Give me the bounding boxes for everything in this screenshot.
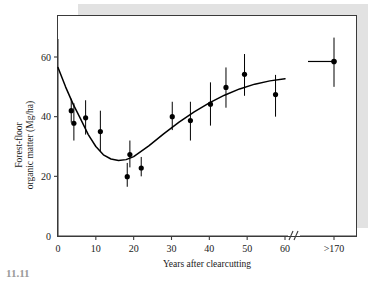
y-tick-label-60: 60 (41, 52, 51, 63)
y-tick-label-40: 40 (41, 111, 51, 122)
data-point-5 (127, 152, 132, 157)
data-point-11 (242, 72, 247, 77)
figure-container: 02040600102030405060>170Years after clea… (0, 0, 375, 281)
x-tick-label-10: 10 (91, 243, 101, 254)
x-tick-label-30: 30 (167, 243, 177, 254)
axis-break-slash-1 (294, 231, 298, 240)
data-point-0 (69, 108, 74, 113)
y-axis-title-line1: Forest-floor (14, 121, 24, 167)
y-axis-title-line2: organic matter (Mg/ha) (25, 101, 36, 189)
data-point-after-break (331, 59, 337, 65)
data-point-3 (98, 129, 103, 134)
data-point-2 (83, 115, 88, 120)
x-axis-title: Years after clearcutting (163, 259, 251, 269)
y-tick-label-0: 0 (46, 231, 51, 242)
y-tick-label-20: 20 (41, 171, 51, 182)
x-tick-label-40: 40 (204, 243, 214, 254)
data-point-1 (71, 121, 76, 126)
x-tick-label-60: 60 (280, 243, 290, 254)
fitted-curve (58, 67, 285, 160)
x-tick-label-0: 0 (56, 243, 61, 254)
data-point-10 (223, 85, 228, 90)
data-point-6 (139, 165, 144, 170)
data-point-4 (125, 174, 130, 179)
data-point-9 (208, 102, 213, 107)
x-tick-label-after-break: >170 (324, 243, 345, 254)
x-tick-label-50: 50 (242, 243, 252, 254)
figure-caption-partial: 11.11 (6, 269, 76, 278)
data-point-12 (273, 92, 278, 97)
data-point-7 (170, 114, 175, 119)
x-tick-label-20: 20 (129, 243, 139, 254)
scatter-chart: 02040600102030405060>170Years after clea… (0, 0, 375, 281)
data-point-8 (188, 118, 193, 123)
axis-break-slash-0 (289, 231, 293, 240)
